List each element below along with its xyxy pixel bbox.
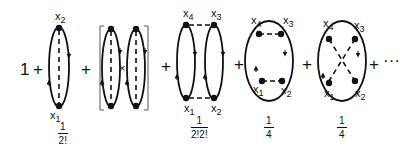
- weight-fraction: 12!2!: [191, 116, 208, 140]
- plus-operator: +: [161, 58, 171, 75]
- plus-operator: +: [33, 61, 43, 78]
- vertex-label-x3: x3: [211, 8, 222, 22]
- vertex-label-x1: x1: [253, 84, 264, 98]
- vertex-label-x2: x2: [281, 85, 292, 99]
- plus-operator: +: [302, 56, 312, 73]
- vertex-label-x4: x4: [323, 18, 334, 32]
- times-operator: ×: [119, 63, 125, 74]
- plus-operator: +: [234, 56, 244, 73]
- weight-fraction: 14: [337, 116, 347, 140]
- plus-operator: +: [81, 61, 91, 78]
- vertex-label-x4: x4: [183, 8, 194, 22]
- vertex-label-x4: x4: [251, 15, 262, 29]
- vertex-label-x3: x3: [354, 20, 365, 34]
- weight-fraction: 12!: [58, 122, 68, 146]
- weight-fraction: 14: [264, 116, 274, 140]
- vertex-label-x3: x3: [283, 15, 294, 29]
- single-loop-diagram: [49, 25, 69, 109]
- vertex-label-x2: x2: [211, 103, 222, 117]
- ellipsis: ···: [383, 52, 400, 69]
- plus-operator: +: [369, 56, 379, 73]
- vertex-label-x2: x2: [355, 88, 366, 102]
- vertex-label-x1: x1: [184, 103, 195, 117]
- leading-term: 1: [20, 61, 29, 78]
- vertex-label-x1: x1: [324, 88, 335, 102]
- vertex-label-x2: x2: [55, 11, 66, 25]
- two-loops-diagram: [177, 22, 223, 101]
